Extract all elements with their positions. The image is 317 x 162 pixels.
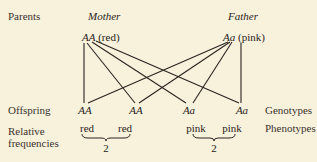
frequency-braces [0,0,317,162]
frequency-pink: 2 [211,142,217,154]
brace-pink [193,134,235,141]
brace-red [82,134,130,141]
frequency-red: 2 [103,142,109,154]
